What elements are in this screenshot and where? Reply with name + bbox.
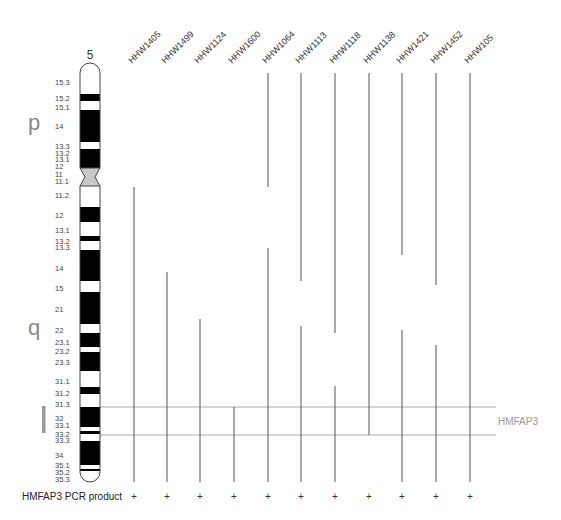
p-arm-label: p xyxy=(28,110,40,135)
pcr-result: + xyxy=(164,491,170,502)
chromosome-band xyxy=(80,292,100,324)
band-label: 11.1 xyxy=(55,177,69,186)
band-label: 13.3 xyxy=(55,243,70,252)
band-label: 14 xyxy=(55,264,63,273)
marker-label-hhw1600: HHW1600 xyxy=(226,29,262,65)
pcr-result: + xyxy=(366,491,372,502)
marker-label-hhw1113: HHW1113 xyxy=(293,30,328,65)
pcr-result: + xyxy=(265,491,271,502)
band-label: 35.3 xyxy=(55,475,70,484)
marker-label-hhw1138: HHW1138 xyxy=(361,29,397,65)
band-label: 15 xyxy=(55,284,63,293)
band-label: 23.1 xyxy=(55,338,70,347)
band-label: 15.1 xyxy=(55,103,70,112)
pcr-product-label: HMFAP3 PCR product xyxy=(22,491,122,502)
pcr-result: + xyxy=(399,491,405,502)
band-label: 15.3 xyxy=(55,78,70,87)
marker-label-hhw1118: HHW1118 xyxy=(327,30,362,65)
pcr-result: + xyxy=(332,491,338,502)
chromosome-band xyxy=(80,431,100,434)
chromosome-band xyxy=(80,110,100,142)
chromosome-band xyxy=(80,207,100,222)
band-label: 31.1 xyxy=(55,377,70,386)
pcr-result: + xyxy=(131,491,137,502)
chromosome-band xyxy=(80,236,100,241)
pcr-result: + xyxy=(231,491,237,502)
band-label: 11.2 xyxy=(55,191,69,200)
pcr-result: + xyxy=(298,491,304,502)
band-label: 22 xyxy=(55,326,63,335)
pcr-result: + xyxy=(467,491,473,502)
band-label: 34 xyxy=(55,451,63,460)
region-marker-bar xyxy=(42,406,46,433)
marker-label-hhw1421: HHW1421 xyxy=(394,29,430,65)
centromere xyxy=(80,168,100,186)
band-label: 13.1 xyxy=(55,226,70,235)
pcr-result: + xyxy=(197,491,203,502)
marker-label-hhw1064: HHW1064 xyxy=(260,29,296,65)
band-label: 12 xyxy=(55,211,63,220)
chromosome-band xyxy=(80,407,100,427)
chromosome-band xyxy=(80,469,100,471)
band-label: 14 xyxy=(55,122,63,131)
q-arm-label: q xyxy=(28,315,40,340)
chromosome-band xyxy=(80,441,100,465)
marker-label-hhw1124: HHW1124 xyxy=(192,29,228,65)
band-label: 33.3 xyxy=(55,436,70,445)
chromosome-band xyxy=(80,149,100,168)
band-label: 15.2 xyxy=(55,94,70,103)
marker-label-hhw1452: HHW1452 xyxy=(428,29,464,65)
chromosome-band xyxy=(80,387,100,394)
chromosome-band xyxy=(80,333,100,347)
marker-label-hhw1499: HHW1499 xyxy=(159,29,195,65)
band-label: 33.1 xyxy=(55,421,70,430)
marker-label-hhw105: HHW105 xyxy=(462,33,495,66)
band-label: 23.3 xyxy=(55,358,70,367)
chromosome-map-figure: HMFAP35pq15.315.215.11413.313.213.112111… xyxy=(0,0,561,520)
band-label: 21 xyxy=(55,305,63,314)
gene-region-label: HMFAP3 xyxy=(498,416,538,427)
chromosome-number: 5 xyxy=(87,48,94,62)
chromosome-band xyxy=(80,94,100,101)
band-label: 23.2 xyxy=(55,347,70,356)
marker-label-hhw1405: HHW1405 xyxy=(126,29,162,65)
band-label: 31.2 xyxy=(55,389,70,398)
chromosome-band xyxy=(80,352,100,371)
chromosome-band xyxy=(80,250,100,281)
band-label: 31.3 xyxy=(55,400,70,409)
pcr-result: + xyxy=(433,491,439,502)
